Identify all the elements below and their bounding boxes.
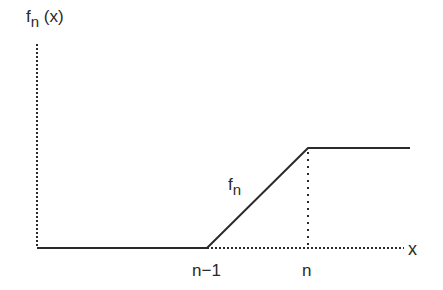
function-plot: fn (x) fn x n−1 n — [0, 0, 443, 290]
curve-label: fn — [228, 175, 241, 198]
tick-label-n-minus-1: n−1 — [192, 261, 221, 280]
y-axis-label: fn (x) — [26, 7, 64, 30]
tick-label-n: n — [302, 261, 311, 280]
diagram-canvas: fn (x) fn x n−1 n — [0, 0, 443, 290]
x-axis-label: x — [408, 239, 417, 259]
function-curve — [37, 148, 410, 248]
